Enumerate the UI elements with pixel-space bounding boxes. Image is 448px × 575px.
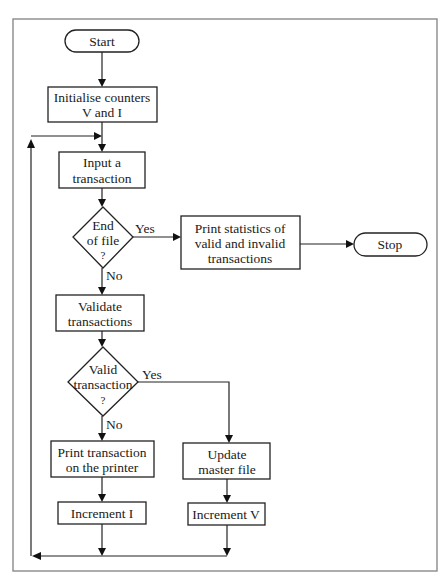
node-valid-label-3: ?	[101, 394, 106, 406]
node-eof: End of file ?	[73, 207, 133, 268]
node-init-label-1: Initialise counters	[54, 90, 150, 105]
arrowhead	[98, 433, 106, 441]
arrowhead	[32, 552, 41, 560]
node-validate-label-2: transactions	[68, 314, 132, 329]
node-init-label-2: V and I	[82, 105, 123, 120]
arrowhead	[173, 233, 181, 241]
node-print-transaction: Print transaction on the printer	[51, 441, 154, 477]
node-input-label-2: transaction	[72, 171, 131, 186]
arrowhead	[225, 435, 233, 443]
node-input: Input a transaction	[59, 152, 145, 188]
node-update: Update master file	[183, 443, 270, 479]
edge-valid-update	[138, 382, 229, 436]
edge-label-valid-yes: Yes	[142, 367, 162, 382]
node-valid: Valid transaction ?	[68, 347, 138, 416]
arrowhead	[98, 494, 106, 502]
node-start-label: Start	[89, 34, 115, 49]
arrowhead	[98, 339, 106, 347]
arrowhead	[346, 240, 354, 248]
arrowhead	[98, 548, 106, 556]
arrowhead	[94, 132, 102, 140]
node-valid-label-1: Valid	[89, 362, 118, 377]
edge-label-eof-yes: Yes	[135, 221, 155, 236]
flowchart-canvas: Start Initialise counters V and I Input …	[0, 0, 448, 575]
node-inc-i-label: Increment I	[71, 506, 134, 521]
node-stop: Stop	[354, 233, 427, 256]
node-validate-label-1: Validate	[78, 299, 122, 314]
node-input-label-1: Input a	[83, 155, 121, 170]
node-stats-label-3: transactions	[208, 251, 272, 266]
arrowhead	[98, 199, 106, 207]
arrowhead	[98, 144, 106, 152]
edge-label-valid-no: No	[106, 417, 123, 432]
node-stats-label-1: Print statistics of	[195, 221, 286, 236]
arrowhead	[98, 287, 106, 295]
node-eof-label-3: ?	[101, 249, 106, 261]
node-eof-label-2: of file	[87, 233, 120, 248]
node-stats-label-2: valid and invalid	[195, 236, 286, 251]
node-valid-label-2: transaction	[73, 377, 132, 392]
arrowhead	[223, 548, 231, 556]
arrowhead	[223, 495, 231, 503]
node-inc-v-label: Increment V	[192, 507, 260, 522]
node-stop-label: Stop	[378, 237, 403, 252]
edge-label-eof-no: No	[106, 268, 123, 283]
node-print-label-1: Print transaction	[58, 445, 147, 460]
arrowhead	[27, 139, 35, 148]
node-increment-v: Increment V	[188, 503, 265, 525]
node-print-label-2: on the printer	[66, 460, 139, 475]
node-validate: Validate transactions	[56, 295, 144, 331]
node-update-label-2: master file	[198, 462, 255, 477]
arrowhead	[98, 79, 106, 87]
node-increment-i: Increment I	[58, 502, 146, 524]
node-update-label-1: Update	[208, 447, 247, 462]
node-start: Start	[65, 30, 139, 52]
node-eof-label-1: End	[92, 218, 114, 233]
node-stats: Print statistics of valid and invalid tr…	[181, 216, 300, 269]
node-init: Initialise counters V and I	[48, 87, 157, 122]
